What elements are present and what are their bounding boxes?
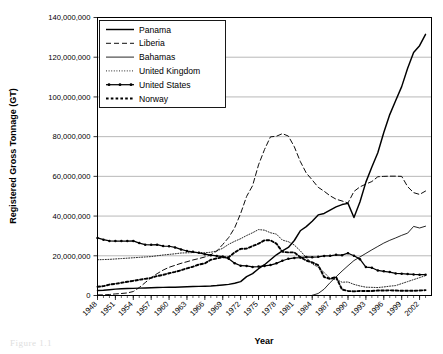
legend-label-united-kingdom: United Kingdom xyxy=(139,66,200,76)
data-point-marker xyxy=(406,273,409,276)
data-point-marker xyxy=(371,266,374,269)
y-tick-label: 80,000,000 xyxy=(52,132,90,141)
data-point-marker xyxy=(412,273,415,276)
legend-label-liberia: Liberia xyxy=(139,38,165,48)
legend-label-united-states: United States xyxy=(139,80,191,90)
data-point-marker xyxy=(192,251,195,254)
data-point-marker xyxy=(347,252,350,255)
y-tick-label: 40,000,000 xyxy=(52,212,90,221)
data-point-marker xyxy=(239,264,242,267)
data-point-marker xyxy=(269,264,272,267)
data-point-marker xyxy=(108,240,111,243)
data-point-marker xyxy=(186,250,189,253)
figure-caption-fragment: Figure 1.1 xyxy=(10,338,52,348)
y-tick-label: 0 xyxy=(86,291,90,300)
legend-marker-dot xyxy=(119,83,122,86)
data-point-marker xyxy=(174,246,177,249)
data-point-marker xyxy=(162,245,165,248)
data-point-marker xyxy=(245,265,248,268)
data-point-marker xyxy=(168,245,171,248)
data-point-marker xyxy=(365,266,368,269)
data-point-marker xyxy=(216,255,219,257)
legend-label-norway: Norway xyxy=(139,94,169,104)
data-point-marker xyxy=(305,256,308,259)
chart-figure: 020,000,00040,000,00060,000,00080,000,00… xyxy=(0,0,443,354)
data-point-marker xyxy=(233,262,236,265)
y-tick-label: 140,000,000 xyxy=(48,13,90,22)
data-point-marker xyxy=(210,254,213,257)
data-point-marker xyxy=(156,243,159,246)
data-point-marker xyxy=(132,240,135,243)
data-point-marker xyxy=(138,242,141,245)
legend-marker-dot xyxy=(108,83,111,86)
data-point-marker xyxy=(341,254,344,257)
data-point-marker xyxy=(359,258,362,261)
data-point-marker xyxy=(293,257,296,260)
data-point-marker xyxy=(126,240,129,243)
data-point-marker xyxy=(389,271,392,274)
legend-label-bahamas: Bahamas xyxy=(139,52,175,62)
data-point-marker xyxy=(150,244,153,247)
data-point-marker xyxy=(120,240,123,243)
data-point-marker xyxy=(180,248,183,251)
y-tick-label: 120,000,000 xyxy=(48,53,90,62)
data-point-marker xyxy=(394,272,397,275)
data-point-marker xyxy=(144,243,147,246)
data-point-marker xyxy=(204,253,207,256)
data-point-marker xyxy=(377,269,380,272)
x-axis-title: Year xyxy=(254,336,274,346)
line-chart: 020,000,00040,000,00060,000,00080,000,00… xyxy=(0,0,443,354)
y-axis-title: Registered Gross Tonnage (GT) xyxy=(8,88,18,223)
data-point-marker xyxy=(383,270,386,273)
data-point-marker xyxy=(311,256,314,259)
legend-marker-dot xyxy=(130,83,133,86)
data-point-marker xyxy=(353,255,356,257)
chart-legend: PanamaLiberiaBahamasUnited KingdomUnited… xyxy=(100,21,226,108)
data-point-marker xyxy=(329,255,332,257)
data-point-marker xyxy=(198,252,201,255)
y-tick-label: 100,000,000 xyxy=(48,93,90,102)
y-tick-label: 60,000,000 xyxy=(52,172,90,181)
data-point-marker xyxy=(257,265,260,268)
data-point-marker xyxy=(251,266,254,269)
data-point-marker xyxy=(424,273,427,276)
data-point-marker xyxy=(263,265,266,268)
data-point-marker xyxy=(287,258,290,261)
data-point-marker xyxy=(275,262,278,265)
data-point-marker xyxy=(102,238,105,241)
data-point-marker xyxy=(335,254,338,256)
data-point-marker xyxy=(400,272,403,275)
data-point-marker xyxy=(317,256,320,259)
data-point-marker xyxy=(323,255,326,257)
legend-label-panama: Panama xyxy=(139,25,171,35)
data-point-marker xyxy=(418,273,421,276)
y-tick-label: 20,000,000 xyxy=(52,252,90,261)
data-point-marker xyxy=(281,260,284,263)
data-point-marker xyxy=(114,240,117,243)
